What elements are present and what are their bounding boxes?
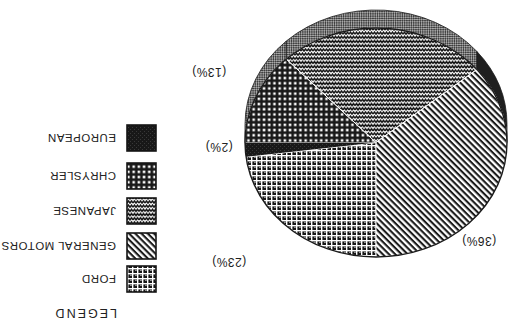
european-pattern-swatch — [126, 124, 157, 152]
ford-pattern-swatch — [126, 265, 157, 293]
legend-item-chrysler: CHRYSLER — [50, 162, 157, 190]
legend-item-european: EUROPEAN — [47, 124, 157, 152]
legend-label-general-motors: GENERAL MOTORS — [1, 240, 116, 252]
legend-label-chrysler: CHRYSLER — [50, 170, 116, 182]
slice-label-chrysler: (13%) — [183, 65, 235, 79]
scanned-figure-page: (36%) (23%) (2%) (13%) LEGEND FORD GENER… — [0, 0, 511, 325]
rotated-figure: (36%) (23%) (2%) (13%) LEGEND FORD GENER… — [0, 0, 511, 325]
legend-label-european: EUROPEAN — [47, 132, 116, 144]
legend-item-japanese: JAPANESE — [53, 197, 157, 225]
legend-title: LEGEND — [54, 306, 117, 320]
legend-label-ford: FORD — [81, 273, 116, 285]
slice-label-general-motors: (36%) — [453, 234, 505, 248]
chrysler-pattern-swatch — [126, 162, 157, 190]
japanese-pattern-swatch — [126, 197, 157, 225]
general-motors-pattern-swatch — [126, 232, 157, 260]
slice-label-european: (2%) — [193, 140, 245, 154]
legend-item-ford: FORD — [81, 265, 157, 293]
slice-label-ford: (23%) — [203, 255, 255, 269]
legend-item-general-motors: GENERAL MOTORS — [1, 232, 157, 260]
legend-label-japanese: JAPANESE — [53, 205, 116, 217]
